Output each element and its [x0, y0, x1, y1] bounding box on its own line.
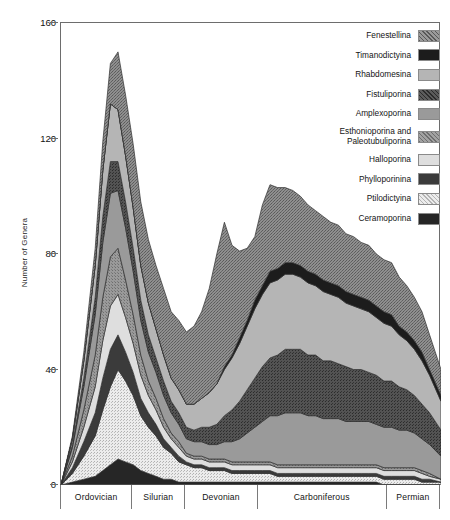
- period-label-permian: Permian: [387, 485, 440, 509]
- swatch-fenestellina: [418, 30, 440, 42]
- swatch-rhabdomesina: [418, 69, 440, 81]
- swatch-phylloporinina: [418, 173, 440, 185]
- swatch-ptilodictyina: [418, 193, 440, 205]
- legend-item[interactable]: Esthonioporina and Paleotubuliporina: [300, 124, 440, 150]
- legend-item[interactable]: Fistuliporina: [300, 85, 440, 105]
- swatch-fistuliporina: [418, 89, 440, 101]
- swatch-timanodictyina: [418, 49, 440, 61]
- figure-root: Number of Genera 04080120160: [0, 0, 450, 520]
- period-label-ordovician: Ordovician: [60, 485, 132, 509]
- y-axis-tick-mark: [50, 369, 58, 370]
- legend-item[interactable]: Timanodictyina: [300, 46, 440, 66]
- legend-item-label: Ptilodictyina: [367, 194, 418, 204]
- legend-item-label: Halloporina: [369, 155, 418, 165]
- legend-item[interactable]: Ceramoporina: [300, 209, 440, 229]
- swatch-esthonioporina: [418, 131, 440, 143]
- legend: FenestellinaTimanodictyinaRhabdomesinaFi…: [300, 26, 440, 228]
- y-axis-tick-group: 04080120160: [0, 0, 56, 520]
- geologic-period-axis: OrdovicianSilurianDevonianCarboniferousP…: [60, 484, 440, 508]
- legend-item[interactable]: Halloporina: [300, 150, 440, 170]
- legend-item[interactable]: Ptilodictyina: [300, 189, 440, 209]
- swatch-ceramoporina: [418, 213, 440, 225]
- legend-item-label: Timanodictyina: [356, 51, 419, 61]
- legend-item[interactable]: Phylloporinina: [300, 170, 440, 190]
- period-label-silurian: Silurian: [132, 485, 185, 509]
- swatch-halloporina: [418, 154, 440, 166]
- legend-item-label: Esthonioporina and Paleotubuliporina: [340, 127, 419, 146]
- period-label-carboniferous: Carboniferous: [258, 485, 387, 509]
- y-axis-tick-mark: [50, 484, 58, 485]
- swatch-amplexoporina: [418, 108, 440, 120]
- legend-item-label: Phylloporinina: [359, 175, 418, 185]
- y-axis-tick-mark: [50, 22, 58, 23]
- legend-item-label: Rhabdomesina: [355, 70, 418, 80]
- y-axis-tick-mark: [50, 138, 58, 139]
- y-axis-tick-mark: [50, 253, 58, 254]
- legend-item-label: Amplexoporina: [356, 109, 418, 119]
- legend-item-label: Fenestellina: [366, 31, 418, 41]
- legend-item[interactable]: Rhabdomesina: [300, 65, 440, 85]
- legend-item-label: Ceramoporina: [358, 214, 418, 224]
- legend-item-label: Fistuliporina: [366, 90, 418, 100]
- legend-item[interactable]: Amplexoporina: [300, 104, 440, 124]
- period-label-devonian: Devonian: [185, 485, 257, 509]
- legend-item[interactable]: Fenestellina: [300, 26, 440, 46]
